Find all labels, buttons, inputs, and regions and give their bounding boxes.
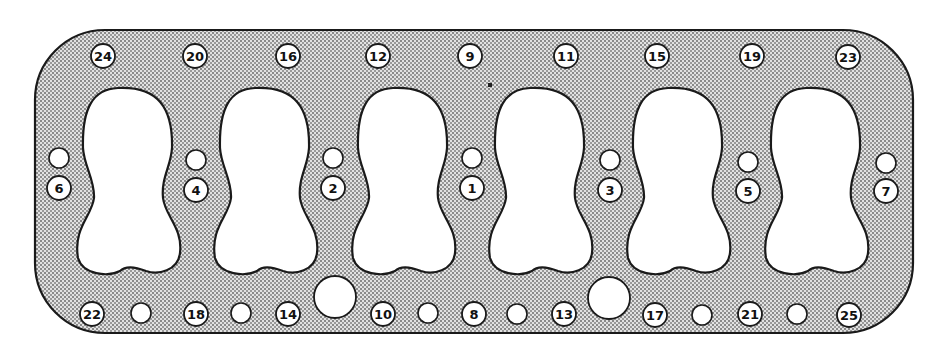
bolt-sequence-number: 22: [83, 307, 101, 322]
bolt-sequence-number: 20: [186, 49, 204, 64]
bolt-sequence-number: 2: [328, 181, 337, 196]
bolt-bottom-25: 25: [837, 303, 861, 327]
large-passage-hole: [588, 277, 630, 319]
bolt-sequence-number: 15: [648, 49, 666, 64]
bolt-top-24: 24: [91, 44, 115, 68]
bolt-sequence-number: 5: [743, 184, 752, 199]
dowel-hole: [323, 148, 343, 168]
bolt-sequence-number: 19: [743, 49, 761, 64]
gasket-svg: 2420161291115192364213572218141081317212…: [0, 0, 952, 353]
gasket-diagram: 2420161291115192364213572218141081317212…: [0, 0, 952, 353]
bolt-top-16: 16: [276, 44, 300, 68]
cylinder-bore-4: [489, 88, 592, 274]
bolt-middle-2: 2: [321, 176, 345, 200]
bolt-sequence-number: 14: [279, 307, 297, 322]
dowel-hole: [462, 148, 482, 168]
plain-hole: [507, 304, 527, 324]
bolt-top-19: 19: [740, 44, 764, 68]
bolt-sequence-number: 4: [191, 183, 200, 198]
bolt-sequence-number: 10: [374, 307, 392, 322]
bolt-sequence-number: 13: [555, 307, 573, 322]
bolt-bottom-8: 8: [462, 302, 486, 326]
bolt-sequence-number: 23: [839, 50, 857, 65]
large-passage-hole: [314, 276, 356, 318]
dowel-hole: [186, 150, 206, 170]
bolt-sequence-number: 8: [469, 307, 478, 322]
cylinder-bore-3: [352, 88, 455, 274]
dowel-hole: [738, 152, 758, 172]
bolt-bottom-21: 21: [738, 302, 762, 326]
bolt-sequence-number: 12: [369, 49, 387, 64]
plain-hole: [418, 303, 438, 323]
bolt-sequence-number: 6: [54, 181, 63, 196]
bolt-bottom-13: 13: [552, 302, 576, 326]
bolt-sequence-number: 21: [741, 307, 759, 322]
bolt-top-11: 11: [554, 44, 578, 68]
dowel-hole: [600, 150, 620, 170]
bolt-bottom-17: 17: [643, 303, 667, 327]
plain-hole: [231, 303, 251, 323]
plain-hole: [692, 305, 712, 325]
bolt-bottom-22: 22: [80, 302, 104, 326]
bolt-top-12: 12: [366, 44, 390, 68]
bolt-bottom-18: 18: [184, 302, 208, 326]
cylinder-bore-5: [627, 88, 730, 274]
cylinder-bore-6: [765, 88, 868, 274]
bolt-sequence-number: 17: [646, 308, 664, 323]
bolt-middle-1: 1: [460, 176, 484, 200]
dowel-hole: [49, 148, 69, 168]
bolt-middle-5: 5: [736, 179, 760, 203]
bolt-middle-6: 6: [47, 176, 71, 200]
bolt-middle-4: 4: [184, 178, 208, 202]
bolt-bottom-10: 10: [371, 302, 395, 326]
bolt-bottom-14: 14: [276, 302, 300, 326]
bolt-sequence-number: 7: [881, 184, 890, 199]
bolt-top-23: 23: [836, 45, 860, 69]
plain-hole: [787, 304, 807, 324]
bolt-sequence-number: 9: [465, 49, 474, 64]
cylinder-bore-2: [214, 88, 317, 274]
bolt-middle-7: 7: [874, 179, 898, 203]
bolt-sequence-number: 3: [605, 183, 614, 198]
dowel-hole: [876, 153, 896, 173]
bolt-sequence-number: 24: [94, 49, 112, 64]
bolt-top-15: 15: [645, 44, 669, 68]
bolt-sequence-number: 25: [840, 308, 858, 323]
bolt-top-20: 20: [183, 44, 207, 68]
bolt-sequence-number: 11: [557, 49, 575, 64]
cylinder-bore-1: [77, 88, 180, 274]
stray-mark: [488, 83, 492, 87]
bolt-sequence-number: 1: [467, 181, 476, 196]
bolt-top-9: 9: [458, 44, 482, 68]
bolt-middle-3: 3: [598, 178, 622, 202]
plain-hole: [131, 303, 151, 323]
bolt-sequence-number: 16: [279, 49, 297, 64]
bolt-sequence-number: 18: [187, 307, 205, 322]
